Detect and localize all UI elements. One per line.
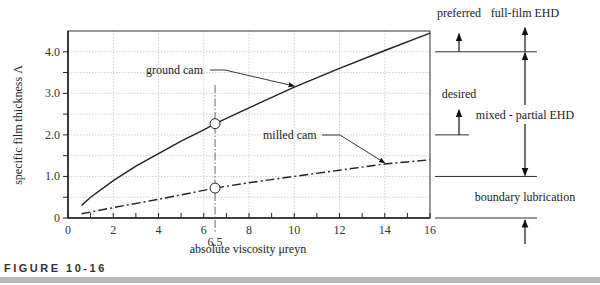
x-tick-label: 10	[288, 223, 300, 237]
x-tick-label: 6	[201, 223, 207, 237]
milled-cam-leader-arrow	[322, 135, 385, 163]
region-label-boundary: boundary lubrication	[475, 190, 575, 204]
figure-caption: FIGURE 10-16	[4, 262, 107, 274]
x-tick-label: 4	[156, 223, 162, 237]
region-label-full-film: full-film EHD	[491, 6, 560, 20]
series: ground cammilled cam	[82, 33, 430, 232]
x-tick-label: 8	[246, 223, 252, 237]
y-axis-label: specific film thickness Λ	[11, 65, 25, 185]
y-tick-label: 0	[54, 211, 60, 225]
y-tick-label: 1.0	[45, 169, 60, 183]
series-point-milled-cam	[210, 183, 220, 193]
chart: ground cammilled cam 024681012141601.02.…	[0, 0, 600, 285]
preferred-label: preferred	[437, 6, 481, 20]
caption-divider	[0, 277, 600, 283]
x-tick-label: 12	[334, 223, 346, 237]
x-tick-label: 0	[65, 223, 71, 237]
grid	[68, 31, 430, 218]
series-line-ground-cam	[82, 33, 430, 205]
region-scale: preferreddesiredfull-film EHDmixed - par…	[435, 6, 575, 244]
series-label-milled-cam: milled cam	[263, 128, 317, 142]
x-tick-label: 16	[424, 223, 436, 237]
y-tick-label: 3.0	[45, 86, 60, 100]
x-tick-label: 14	[379, 223, 391, 237]
x-tick-label: 2	[110, 223, 116, 237]
series-point-ground-cam	[210, 119, 220, 129]
region-label-mixed: mixed - partial EHD	[476, 108, 575, 122]
series-label-ground-cam: ground cam	[146, 63, 204, 77]
y-tick-label: 2.0	[45, 128, 60, 142]
y-tick-label: 4.0	[45, 45, 60, 59]
desired-label: desired	[442, 87, 477, 101]
x-axis-label: absolute viscosity μreyn	[190, 242, 306, 256]
